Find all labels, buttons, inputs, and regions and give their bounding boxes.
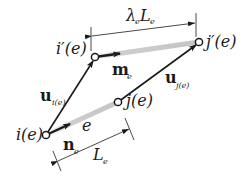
- label-node-j-prime: j′(e): [203, 32, 237, 51]
- label-original-L: L: [92, 145, 104, 164]
- node-j: [114, 98, 121, 105]
- label-deformed-L-sub: e: [150, 17, 155, 26]
- label-u-i: u: [40, 86, 52, 105]
- label-deformed-L: L: [139, 6, 151, 25]
- label-n-sub: e: [74, 147, 79, 156]
- label-m-sub: e: [127, 72, 132, 81]
- label-node-j: j(e): [123, 91, 153, 110]
- dim-tick-right-bottom: [125, 118, 134, 140]
- label-node-i-prime: i′(e): [56, 39, 87, 58]
- node-i-prime: [91, 53, 98, 60]
- label-original-L-sub: e: [103, 157, 108, 166]
- label-node-i: i(e): [16, 125, 43, 144]
- label-u-j-sub: j(e): [174, 81, 189, 90]
- node-i: [42, 131, 49, 138]
- label-element: e: [82, 116, 91, 135]
- label-u-i-sub: i(e): [52, 98, 66, 107]
- node-j-prime: [195, 38, 202, 45]
- dim-tick-left-bottom: [53, 151, 61, 171]
- element-diagram: i(e) j(e) i′(e) j′(e) e u i(e) u j(e) m …: [0, 0, 246, 184]
